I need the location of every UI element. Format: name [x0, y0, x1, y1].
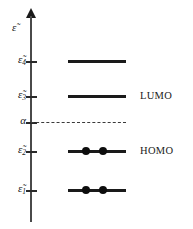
tick-mark-e4	[26, 61, 37, 63]
energy-level-line-e2	[68, 150, 126, 153]
tick-label-e1-subscript: 1	[22, 187, 26, 196]
tick-label-e3: ε̃3	[18, 89, 26, 100]
energy-axis-label: ε̃	[12, 22, 16, 33]
tick-label-e2-subscript: 2	[22, 148, 26, 157]
tick-label-e3-subscript: 3	[22, 93, 26, 102]
tick-label-wrap-e1: ε̃1	[0, 183, 26, 197]
tick-mark-e3	[26, 96, 37, 98]
tick-label-e4: ε̃4	[18, 54, 26, 65]
tick-label-wrap-e4: ε̃4	[0, 54, 26, 68]
energy-level-line-e4	[68, 60, 126, 63]
tick-label-e4-subscript: 4	[22, 58, 26, 67]
tick-label-alpha: α	[20, 115, 26, 126]
electron-dot	[82, 147, 90, 155]
tick-label-e2: ε̃2	[18, 144, 26, 155]
tick-label-e1: ε̃1	[18, 183, 26, 194]
tick-mark-e2	[26, 151, 37, 153]
tick-label-wrap-e3: ε̃3	[0, 89, 26, 103]
lumo-label: LUMO	[140, 91, 172, 102]
energy-level-line-e3	[68, 95, 126, 98]
electron-dot	[82, 186, 90, 194]
tick-label-wrap-e2: ε̃2	[0, 144, 26, 158]
tick-label-alpha-base: α	[20, 114, 26, 126]
electron-dot	[99, 186, 107, 194]
energy-level-line-e1	[68, 189, 126, 192]
homo-label: HOMO	[140, 146, 173, 157]
tick-label-wrap-alpha: α	[0, 115, 26, 129]
energy-level-line-alpha	[31, 122, 126, 123]
electron-dot	[99, 147, 107, 155]
energy-level-diagram: ε̃ ε̃4 ε̃3 α ε̃2 ε̃1 LUMO HOMO	[0, 0, 193, 229]
tick-mark-e1	[26, 190, 37, 192]
